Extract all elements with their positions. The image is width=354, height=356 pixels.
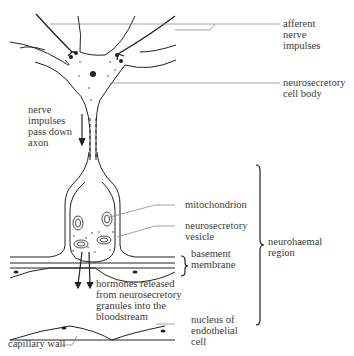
label-afferent-nerve-impulses: afferent nerve impulses — [283, 18, 320, 51]
braces — [181, 165, 264, 325]
label-nerve-impulses: nerve impulses pass down axon — [28, 104, 72, 148]
label-cell-body: neurosecretory cell body — [283, 77, 345, 99]
label-basement-membrane: basement membrane — [191, 248, 235, 270]
label-neurohaemal-region: neurohaemal region — [268, 236, 322, 258]
mitochondria — [73, 212, 112, 248]
label-endothelial-nucleus: nucleus of endothelial cell — [191, 314, 238, 347]
axon-terminal — [10, 152, 175, 257]
label-vesicle: neurosecretory vesicle — [185, 220, 247, 242]
afferent-axons — [36, 14, 175, 60]
label-mitochondrion: mitochondrion — [185, 199, 247, 210]
label-capillary-wall: capillary wall — [8, 338, 65, 349]
axon-core — [90, 118, 96, 160]
label-hormones-released: hormones released from neurosecretory gr… — [96, 278, 181, 322]
